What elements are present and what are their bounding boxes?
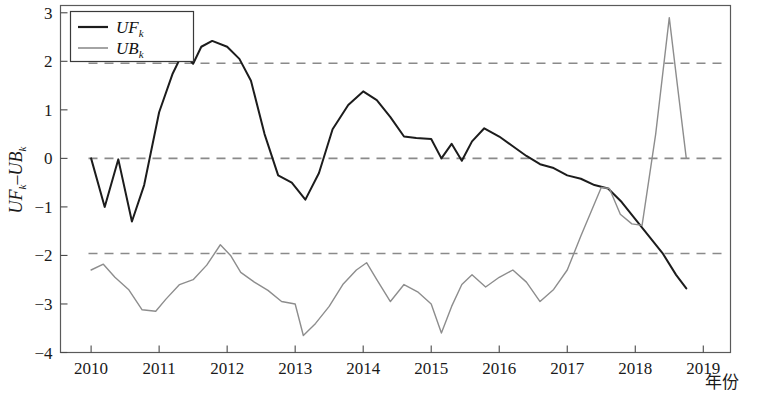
y-axis-title: UFk–UBk <box>6 146 28 214</box>
y-tick-label: 1 <box>44 101 53 120</box>
chart-legend: UFk UBk <box>71 12 194 62</box>
y-tick-label: 2 <box>44 52 53 71</box>
svg-text:UFk–UBk: UFk–UBk <box>6 146 28 214</box>
y-tick-label: 0 <box>44 149 53 168</box>
y-tick-label: −1 <box>34 198 52 217</box>
x-tick-label: 2012 <box>210 359 244 378</box>
mann-kendall-uf-ub-chart: −4−3−2−10123 201020112012201320142015201… <box>0 0 760 410</box>
y-tick-label: −2 <box>34 246 52 265</box>
x-tick-label: 2014 <box>346 359 381 378</box>
y-title-uf: UF <box>6 188 26 213</box>
y-title-ub: UB <box>6 152 26 176</box>
y-tick-label: −4 <box>34 344 53 363</box>
y-tick-label: 3 <box>44 4 53 23</box>
x-tick-label: 2015 <box>414 359 448 378</box>
legend-label-uf: UF <box>116 18 139 37</box>
x-tick-label: 2018 <box>618 359 652 378</box>
x-tick-label: 2017 <box>550 359 585 378</box>
y-tick-label: −3 <box>34 295 52 314</box>
legend-label-ub: UB <box>116 39 139 58</box>
x-tick-label: 2013 <box>278 359 312 378</box>
x-tick-label: 2010 <box>74 359 108 378</box>
figure-container: −4−3−2−10123 201020112012201320142015201… <box>0 0 760 410</box>
x-tick-label: 2016 <box>482 359 516 378</box>
x-tick-label: 2011 <box>142 359 175 378</box>
x-axis-title: 年份 <box>705 373 739 392</box>
